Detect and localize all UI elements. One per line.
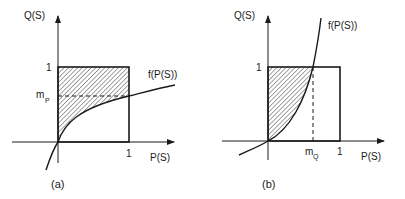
x-tick-1-b: 1 [337, 146, 343, 157]
hatched-region-a [58, 67, 129, 142]
panel-a: Q(S) 1 m P 1 P(S) f(P(S)) (a) [12, 10, 177, 190]
curve-label-b: f(P(S)) [328, 20, 357, 31]
x-axis-label-b: P(S) [361, 151, 381, 162]
mq-label-sub: Q [313, 153, 319, 161]
y-tick-1-a: 1 [46, 62, 52, 73]
y-axis-label-a: Q(S) [24, 10, 45, 21]
hatched-region-b [268, 67, 313, 141]
y-tick-1-b: 1 [256, 62, 262, 73]
caption-a: (a) [51, 178, 64, 190]
figure: Q(S) 1 m P 1 P(S) f(P(S)) (a) Q(S) 1 m Q… [0, 0, 405, 199]
y-axis-label-b: Q(S) [234, 10, 255, 21]
caption-b: (b) [262, 178, 275, 190]
mp-label-main: m [36, 89, 44, 100]
x-axis-label-a: P(S) [150, 152, 170, 163]
mp-label-sub: P [45, 97, 50, 104]
x-tick-1-a: 1 [126, 148, 132, 159]
curve-label-a: f(P(S)) [148, 69, 177, 80]
panel-b: Q(S) 1 m Q 1 P(S) f(P(S)) (b) [222, 10, 384, 190]
